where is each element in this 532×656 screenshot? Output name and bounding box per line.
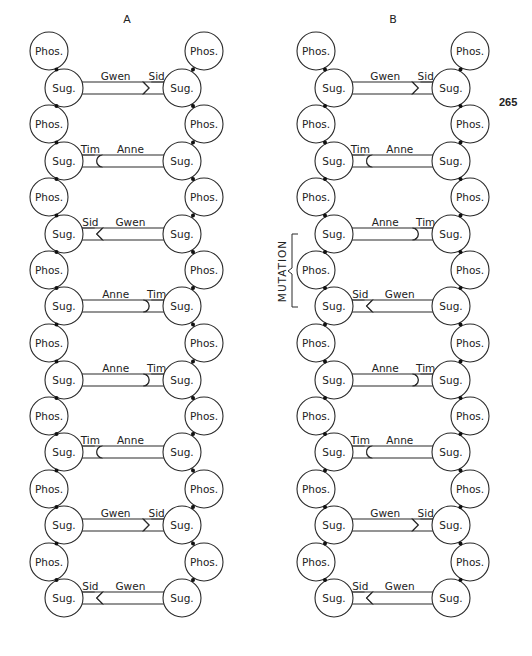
phosphate-right-label: Phos. — [456, 556, 484, 568]
panel-b-strand: GwenSidTimAnneAnneTimSidGwenAnneTimTimAn… — [297, 32, 489, 617]
sugar-left: Sug. — [45, 579, 83, 617]
phosphate-left-label: Phos. — [35, 264, 63, 276]
phosphate-right: Phos. — [451, 324, 489, 362]
sugar-left-label: Sug. — [322, 519, 345, 531]
phosphate-right-label: Phos. — [456, 483, 484, 495]
sugar-left-label: Sug. — [322, 228, 345, 240]
sugar-left: Sug. — [45, 142, 83, 180]
phosphate-right: Phos. — [185, 251, 223, 289]
phosphate-left-label: Phos. — [302, 410, 330, 422]
phosphate-left: Phos. — [30, 397, 68, 435]
phosphate-right: Phos. — [451, 32, 489, 70]
sugar-left-label: Sug. — [52, 519, 75, 531]
base-pair: AnneTim — [82, 288, 166, 312]
sugar-right-label: Sug. — [170, 300, 193, 312]
sugar-right-label: Sug. — [439, 228, 462, 240]
base-label-left: Tim — [350, 143, 370, 155]
sugar-right-label: Sug. — [439, 592, 462, 604]
phosphate-left-label: Phos. — [302, 483, 330, 495]
phosphate-left: Phos. — [30, 32, 68, 70]
phosphate-left-label: Phos. — [302, 191, 330, 203]
sugar-left-label: Sug. — [52, 374, 75, 386]
sugar-left-label: Sug. — [322, 82, 345, 94]
phosphate-right-label: Phos. — [190, 264, 218, 276]
phosphate-right: Phos. — [451, 397, 489, 435]
phosphate-left: Phos. — [30, 324, 68, 362]
phosphate-right: Phos. — [451, 178, 489, 216]
phosphate-left-label: Phos. — [302, 264, 330, 276]
base-label-right: Gwen — [115, 216, 145, 228]
base-pair: TimAnne — [350, 143, 433, 167]
base-anne — [97, 155, 164, 167]
phosphate-right-label: Phos. — [456, 45, 484, 57]
sugar-left: Sug. — [315, 506, 353, 544]
phosphate-left: Phos. — [297, 105, 335, 143]
phosphate-left: Phos. — [297, 178, 335, 216]
base-label-right: Tim — [146, 288, 166, 300]
sugar-right: Sug. — [163, 579, 201, 617]
sugar-left: Sug. — [315, 142, 353, 180]
base-label-right: Anne — [117, 434, 144, 446]
phosphate-left: Phos. — [297, 251, 335, 289]
base-pair: SidGwen — [82, 580, 164, 604]
phosphate-right-label: Phos. — [190, 556, 218, 568]
base-pair: GwenSid — [82, 507, 165, 531]
phosphate-left-label: Phos. — [35, 45, 63, 57]
phosphate-right: Phos. — [185, 32, 223, 70]
base-label-left: Sid — [82, 580, 98, 592]
phosphate-left-label: Phos. — [35, 556, 63, 568]
sugar-right: Sug. — [163, 215, 201, 253]
sugar-right: Sug. — [163, 287, 201, 325]
base-anne — [97, 446, 164, 458]
phosphate-right-label: Phos. — [456, 410, 484, 422]
phosphate-right-label: Phos. — [190, 45, 218, 57]
mutation-label: MUTATION — [276, 240, 288, 302]
sugar-right-label: Sug. — [439, 374, 462, 386]
phosphate-left-label: Phos. — [35, 337, 63, 349]
sugar-right: Sug. — [432, 215, 470, 253]
base-label-right: Sid — [418, 70, 434, 82]
base-anne — [352, 374, 418, 386]
base-gwen — [82, 519, 149, 531]
base-label-left: Tim — [80, 143, 100, 155]
base-pair: TimAnne — [350, 434, 433, 458]
base-gwen — [367, 300, 433, 312]
phosphate-right-label: Phos. — [190, 483, 218, 495]
phosphate-right: Phos. — [451, 543, 489, 581]
base-label-right: Sid — [418, 507, 434, 519]
base-label-right: Gwen — [385, 580, 415, 592]
phosphate-right-label: Phos. — [456, 264, 484, 276]
phosphate-left-label: Phos. — [35, 483, 63, 495]
base-pair: AnneTim — [352, 362, 435, 386]
phosphate-left: Phos. — [30, 105, 68, 143]
base-pair: TimAnne — [80, 434, 164, 458]
mutation-bracket: MUTATION — [276, 234, 298, 307]
sugar-right: Sug. — [432, 287, 470, 325]
sugar-left-label: Sug. — [322, 300, 345, 312]
sugar-left: Sug. — [45, 361, 83, 399]
sugar-left: Sug. — [45, 215, 83, 253]
base-label-left: Tim — [350, 434, 370, 446]
base-pair: AnneTim — [352, 216, 435, 240]
base-pair: GwenSid — [352, 507, 434, 531]
sugar-left: Sug. — [45, 433, 83, 471]
phosphate-left-label: Phos. — [302, 118, 330, 130]
sugar-right: Sug. — [432, 69, 470, 107]
sugar-left-label: Sug. — [322, 446, 345, 458]
phosphate-left: Phos. — [297, 324, 335, 362]
base-gwen — [97, 592, 164, 604]
sugar-left: Sug. — [315, 69, 353, 107]
base-label-right: Anne — [386, 434, 413, 446]
phosphate-right: Phos. — [185, 324, 223, 362]
phosphate-left-label: Phos. — [302, 45, 330, 57]
base-label-right: Anne — [117, 143, 144, 155]
sugar-left: Sug. — [315, 579, 353, 617]
phosphate-left: Phos. — [30, 178, 68, 216]
phosphate-right: Phos. — [185, 105, 223, 143]
phosphate-left-label: Phos. — [35, 191, 63, 203]
base-label-right: Gwen — [115, 580, 145, 592]
base-label-right: Anne — [386, 143, 413, 155]
sugar-right-label: Sug. — [170, 592, 193, 604]
sugar-right: Sug. — [163, 69, 201, 107]
sugar-right: Sug. — [432, 142, 470, 180]
